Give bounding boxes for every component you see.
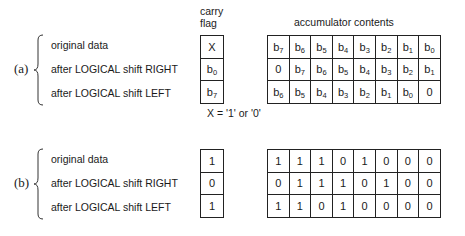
bit-cell: 0 — [375, 195, 397, 218]
row-label-shift-right: after LOGICAL shift RIGHT — [51, 177, 178, 189]
bit-cell: 1 — [268, 195, 290, 218]
bit-cell: 0 — [354, 195, 376, 218]
row-label-shift-left: after LOGICAL shift LEFT — [51, 201, 171, 213]
bit-cell: 0 — [332, 150, 354, 173]
bit-cell: 1 — [332, 195, 354, 218]
bit-cell: b3 — [375, 58, 397, 81]
bit-cell: 1 — [375, 172, 397, 195]
bit-cell: 1 — [289, 150, 311, 173]
bit-cell: b4 — [354, 58, 376, 81]
table-row: 11010000 — [268, 195, 441, 218]
bit-cell: b1 — [419, 58, 441, 81]
bit-cell: 1 — [268, 150, 290, 173]
note-x-value: X = '1' or '0' — [207, 107, 261, 119]
bit-cell: b7 — [268, 36, 290, 59]
bit-cell: 0 — [375, 150, 397, 173]
bit-cell: 0 — [397, 150, 419, 173]
bit-cell: b5 — [311, 36, 333, 59]
carry-flag-table-b: 101 — [200, 149, 224, 218]
bit-cell: b2 — [397, 58, 419, 81]
carry-flag-cell: X — [201, 36, 224, 59]
bit-cell: b2 — [375, 36, 397, 59]
bit-cell: 1 — [289, 195, 311, 218]
table-row: b7b6b5b4b3b2b1b0 — [268, 36, 441, 59]
bit-cell: 0 — [419, 150, 441, 173]
left-brace-icon — [33, 148, 45, 220]
bit-cell: b4 — [311, 81, 333, 104]
section-label-a: (a) — [14, 62, 28, 76]
carry-flag-cell: 1 — [201, 150, 224, 173]
accumulator-contents-header: accumulator contents — [294, 16, 394, 28]
bit-cell: b6 — [289, 36, 311, 59]
bit-cell: 0 — [311, 195, 333, 218]
left-brace-icon — [33, 34, 45, 106]
bit-cell: b0 — [419, 36, 441, 59]
table-row: b7 — [201, 81, 224, 104]
section-label-b: (b) — [14, 176, 29, 190]
bit-cell: b3 — [354, 36, 376, 59]
row-label-original: original data — [51, 153, 108, 165]
bit-cell: 0 — [354, 172, 376, 195]
bit-cell: 1 — [311, 172, 333, 195]
table-row: 0 — [201, 172, 224, 195]
table-row: b0 — [201, 58, 224, 81]
accumulator-table-a: b7b6b5b4b3b2b1b00b7b6b5b4b3b2b1b6b5b4b3b… — [267, 35, 441, 104]
accumulator-table-b: 111010000111010011010000 — [267, 149, 441, 218]
row-label-shift-right: after LOGICAL shift RIGHT — [51, 63, 178, 75]
bit-cell: b6 — [268, 81, 290, 104]
table-row: 1 — [201, 195, 224, 218]
bit-cell: 1 — [311, 150, 333, 173]
table-row: 11101000 — [268, 150, 441, 173]
carry-flag-cell: 0 — [201, 172, 224, 195]
bit-cell: b1 — [375, 81, 397, 104]
bit-cell: 0 — [419, 195, 441, 218]
row-label-original: original data — [51, 39, 108, 51]
bit-cell: 0 — [419, 81, 441, 104]
bit-cell: b5 — [289, 81, 311, 104]
table-row: b6b5b4b3b2b1b00 — [268, 81, 441, 104]
bit-cell: b7 — [289, 58, 311, 81]
carry-flag-header: carry flag — [200, 5, 240, 29]
table-row: 0b7b6b5b4b3b2b1 — [268, 58, 441, 81]
bit-cell: 1 — [332, 172, 354, 195]
bit-cell: b6 — [311, 58, 333, 81]
bit-cell: b3 — [332, 81, 354, 104]
table-row: 1 — [201, 150, 224, 173]
carry-flag-cell: b7 — [201, 81, 224, 104]
bit-cell: b1 — [397, 36, 419, 59]
carry-flag-cell: 1 — [201, 195, 224, 218]
bit-cell: b2 — [354, 81, 376, 104]
bit-cell: 1 — [289, 172, 311, 195]
bit-cell: b5 — [332, 58, 354, 81]
carry-flag-table-a: Xb0b7 — [200, 35, 224, 104]
bit-cell: 1 — [354, 150, 376, 173]
table-row: X — [201, 36, 224, 59]
bit-cell: b4 — [332, 36, 354, 59]
bit-cell: 0 — [419, 172, 441, 195]
bit-cell: 0 — [268, 58, 290, 81]
bit-cell: 0 — [397, 195, 419, 218]
bit-cell: 0 — [268, 172, 290, 195]
table-row: 01110100 — [268, 172, 441, 195]
bit-cell: b0 — [397, 81, 419, 104]
row-label-shift-left: after LOGICAL shift LEFT — [51, 87, 171, 99]
carry-flag-cell: b0 — [201, 58, 224, 81]
bit-cell: 0 — [397, 172, 419, 195]
